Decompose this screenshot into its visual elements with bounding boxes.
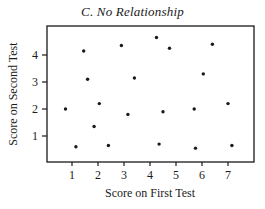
data-point — [202, 72, 205, 75]
data-point — [230, 144, 233, 147]
data-point — [126, 113, 129, 116]
data-point — [157, 142, 160, 145]
x-tick-label: 4 — [147, 168, 153, 182]
data-point — [120, 44, 123, 47]
data-point — [92, 125, 95, 128]
x-tick-label: 1 — [69, 168, 75, 182]
data-point — [194, 146, 197, 149]
data-point — [155, 36, 158, 39]
x-axis-ticks: 1234567 — [69, 162, 231, 182]
y-axis-ticks: 1234 — [32, 48, 47, 143]
data-point — [211, 43, 214, 46]
data-point — [82, 49, 85, 52]
data-point — [86, 78, 89, 81]
data-points — [64, 36, 234, 150]
x-tick-label: 2 — [95, 168, 101, 182]
y-tick-label: 4 — [32, 48, 38, 62]
x-tick-label: 3 — [121, 168, 127, 182]
x-tick-label: 6 — [199, 168, 205, 182]
data-point — [133, 76, 136, 79]
y-tick-label: 3 — [32, 75, 38, 89]
data-point — [193, 107, 196, 110]
x-tick-label: 7 — [225, 168, 231, 182]
plot-border — [47, 26, 254, 162]
x-tick-label: 5 — [173, 168, 179, 182]
data-point — [74, 145, 77, 148]
data-point — [168, 47, 171, 50]
data-point — [226, 102, 229, 105]
scatter-plot: 1234567 1234 Score on First Test Score o… — [0, 0, 265, 209]
y-axis-label: Score on Second Test — [6, 42, 20, 146]
plot-frame — [47, 26, 254, 162]
y-tick-label: 1 — [32, 129, 38, 143]
y-tick-label: 2 — [32, 102, 38, 116]
data-point — [161, 110, 164, 113]
data-point — [64, 107, 67, 110]
data-point — [98, 102, 101, 105]
x-axis-label: Score on First Test — [105, 186, 196, 200]
data-point — [107, 144, 110, 147]
